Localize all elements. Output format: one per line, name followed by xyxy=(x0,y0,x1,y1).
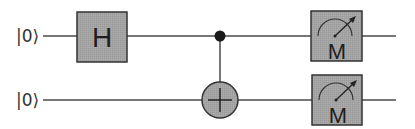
measure-gate-qubit-1[interactable]: M xyxy=(312,75,362,128)
measure-gate-label: M xyxy=(329,103,347,128)
measure-gate-qubit-0[interactable]: M xyxy=(311,11,362,64)
qubit-1-label: |0⟩ xyxy=(16,90,39,110)
hadamard-gate-label: H xyxy=(92,22,112,53)
quantum-circuit: |0⟩ |0⟩ H M M xyxy=(0,0,415,129)
cnot-gate[interactable] xyxy=(202,31,238,119)
hadamard-gate[interactable]: H xyxy=(77,12,127,62)
measure-gate-label: M xyxy=(328,39,346,64)
cnot-control-dot-icon xyxy=(215,31,226,42)
qubit-0-label: |0⟩ xyxy=(16,26,39,46)
